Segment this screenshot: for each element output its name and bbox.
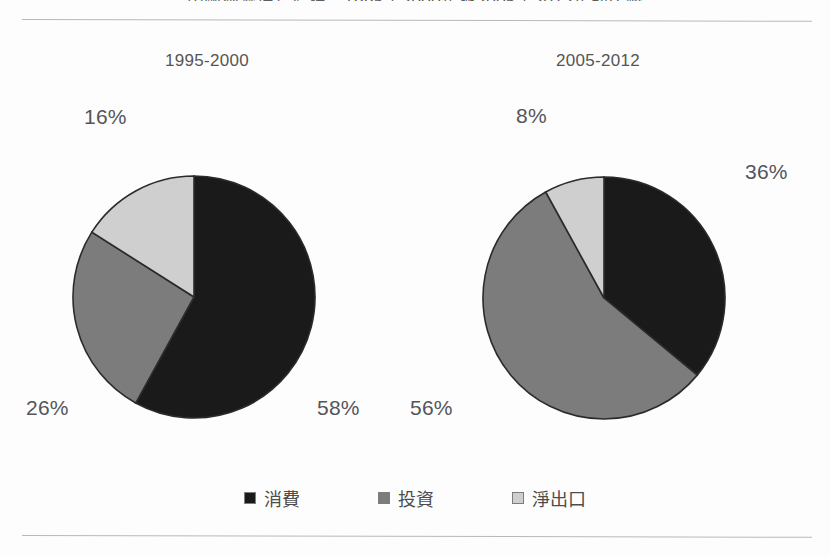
legend-swatch-consumption: [244, 492, 256, 504]
pie-right-svg: [481, 175, 727, 421]
legend-swatch-investment: [378, 492, 390, 504]
pie-left-label-net-exports: 16%: [84, 105, 127, 129]
legend-swatch-net-exports: [512, 492, 524, 504]
bottom-divider-rule: [22, 535, 812, 538]
chart-page: 中國經濟增長結構：1995至2000年與2005至2012年的比較 1995-2…: [0, 0, 830, 556]
document-top-title: 中國經濟增長結構：1995至2000年與2005至2012年的比較: [0, 0, 830, 1]
legend-item-consumption: 消費: [244, 485, 300, 511]
legend-item-net-exports: 淨出口: [512, 485, 586, 511]
pie-left-label-consumption: 58%: [317, 396, 360, 420]
pie-right-label-investment: 56%: [410, 396, 453, 420]
legend-item-investment: 投資: [378, 485, 434, 511]
chart-title-left: 1995-2000: [165, 51, 249, 71]
pie-left-label-investment: 26%: [26, 396, 69, 420]
top-divider-rule: [22, 19, 812, 22]
pie-right-label-consumption: 36%: [745, 160, 788, 184]
legend-label-net-exports: 淨出口: [532, 485, 586, 511]
chart-legend: 消費 投資 淨出口: [0, 485, 830, 511]
legend-label-consumption: 消費: [264, 485, 300, 511]
pie-right-label-net-exports: 8%: [516, 104, 547, 128]
pie-chart-right: [481, 175, 727, 421]
chart-title-right: 2005-2012: [556, 51, 640, 71]
legend-label-investment: 投資: [398, 485, 434, 511]
pie-left-svg: [71, 174, 317, 420]
pie-chart-left: [71, 174, 317, 420]
